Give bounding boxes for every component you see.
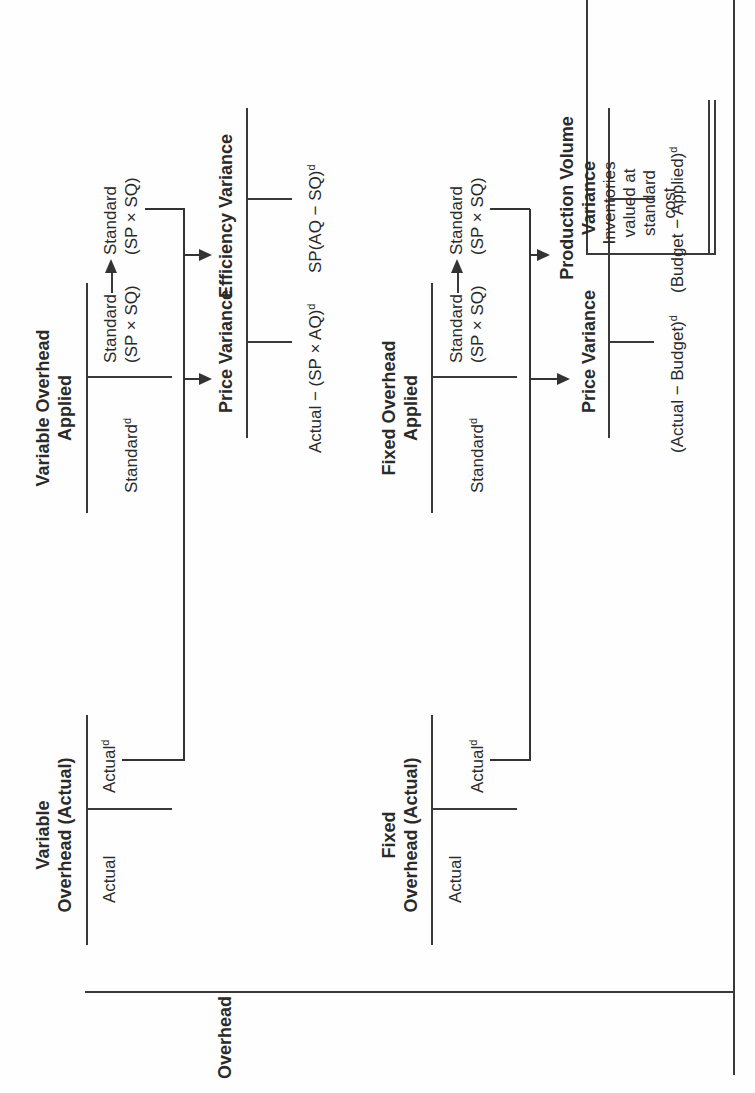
var-applied-credit: Standard (SP × SQ) [100, 285, 142, 363]
fixed-actual-t-top [431, 715, 433, 945]
fixed-to-standard-arrowhead [451, 259, 463, 273]
production-volume-variance-title: Production Volume Variance [556, 98, 600, 298]
var-to-standard-arrow-shaft [111, 271, 113, 293]
fixed-to-standard-arrow-shaft [457, 271, 459, 293]
var-to-standard-arrowhead [105, 259, 117, 273]
fixed-price-arrow-shaft [529, 378, 559, 380]
var-destination-standard: Standard (SP × SQ) [100, 177, 142, 255]
var-actual-credit: Actuald [100, 740, 120, 793]
row-label-overhead: Overhead [214, 996, 236, 1079]
double-rule-b [714, 100, 716, 255]
fixed-volume-arrowhead [537, 249, 550, 261]
var-connector-actual-stub [122, 759, 184, 761]
fixed-price-variance-title: Price Variance [578, 290, 600, 413]
inventory-standard-cost-note: Inventories valued at standard cost [600, 153, 680, 253]
rotated-diagram-layer: Overhead Variable Overhead (Actual) Actu… [0, 0, 755, 1093]
fixed-actual-credit: Actuald [468, 740, 488, 793]
var-price-variance-title: Price Variance [215, 290, 237, 413]
var-actual-t-stem [86, 809, 172, 811]
var-efficiency-variance-title: Efficiency Variance [215, 134, 237, 298]
fixed-applied-credit: Standard (SP × SQ) [446, 285, 488, 363]
var-eff-arrowhead [199, 249, 212, 261]
fixed-price-formula: (Actual − Budget)d [668, 315, 688, 453]
fixed-connector-spine [529, 209, 531, 761]
var-actual-debit: Actual [100, 856, 120, 903]
var-actual-title: Variable Overhead (Actual) [32, 725, 76, 945]
var-connector-standard-stub [145, 208, 185, 210]
fixed-actual-title: Fixed Overhead (Actual) [378, 725, 422, 945]
var-price-arrowhead [199, 373, 212, 385]
var-applied-t-stem [86, 377, 172, 379]
fixed-applied-debit: Standardd [468, 418, 488, 493]
diagram-canvas: Overhead Variable Overhead (Actual) Actu… [0, 0, 755, 1093]
var-eff-formula: SP(AQ − SQ)d [306, 164, 326, 273]
fixed-applied-t-top [431, 283, 433, 513]
var-applied-t-top [86, 283, 88, 513]
var-price-t-stem [246, 342, 292, 344]
fixed-connector-standard-stub [490, 208, 530, 210]
header-divider-line [85, 992, 735, 994]
fixed-actual-t-stem [431, 809, 517, 811]
right-border-line [733, 0, 735, 1075]
fixed-applied-t-stem [431, 377, 517, 379]
fixed-price-arrowhead [557, 373, 570, 385]
fixed-actual-debit: Actual [446, 856, 466, 903]
var-price-formula: Actual − (SP × AQ)d [306, 304, 326, 453]
inventory-underline [586, 254, 716, 256]
fixed-applied-title: Fixed Overhead Applied [378, 283, 422, 533]
var-eff-t-top [246, 108, 248, 298]
var-connector-spine [183, 209, 185, 761]
fixed-destination-standard: Standard (SP × SQ) [446, 177, 488, 255]
var-applied-debit: Standardd [122, 418, 142, 493]
double-rule-a [708, 100, 710, 255]
fixed-connector-actual-stub [490, 759, 530, 761]
var-actual-t-top [86, 715, 88, 945]
var-applied-title: Variable Overhead Applied [32, 283, 76, 533]
var-eff-t-stem [246, 199, 292, 201]
fixed-price-t-stem [608, 342, 654, 344]
